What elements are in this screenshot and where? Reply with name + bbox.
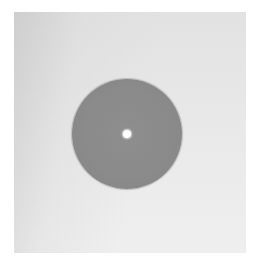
gray-disc: [72, 79, 182, 189]
photograph: [14, 12, 246, 253]
cropped-caption-text: [60, 0, 140, 3]
center-hole: [123, 130, 131, 138]
